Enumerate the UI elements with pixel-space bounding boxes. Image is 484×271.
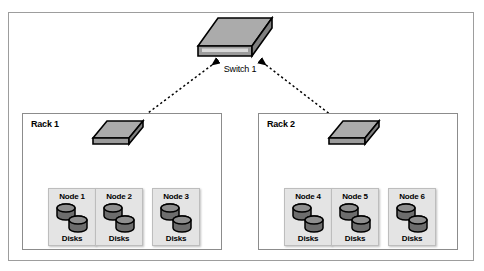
node-1-disks-label: Disks [49, 234, 95, 243]
node-4-label: Node 4 [285, 192, 331, 201]
core-switch-label: Switch 1 [205, 64, 275, 74]
node-5-label: Node 5 [332, 192, 378, 201]
node-2-disks-label: Disks [96, 234, 142, 243]
node-1-label: Node 1 [49, 192, 95, 201]
node-5-disks-label: Disks [332, 234, 378, 243]
node-box-6[interactable]: Node 6 Disks [388, 188, 436, 246]
network-switch-icon [196, 16, 274, 64]
diagram-canvas: Switch 1 Rack 1 Node 1 Disks Node [0, 0, 484, 271]
disk-stack-icon [103, 203, 137, 233]
disk-stack-icon [56, 203, 90, 233]
node-4-disks-label: Disks [285, 234, 331, 243]
node-3-label: Node 3 [153, 192, 199, 201]
disk-stack-icon [396, 203, 430, 233]
node-box-1[interactable]: Node 1 Disks [48, 188, 96, 246]
network-switch-icon [91, 119, 145, 147]
node-6-label: Node 6 [389, 192, 435, 201]
core-switch[interactable] [196, 16, 274, 64]
rack-2-label: Rack 2 [267, 119, 295, 129]
disk-stack-icon [160, 203, 194, 233]
node-2-label: Node 2 [96, 192, 142, 201]
disk-stack-icon [292, 203, 326, 233]
node-box-4[interactable]: Node 4 Disks [284, 188, 332, 246]
node-box-2[interactable]: Node 2 Disks [95, 188, 143, 246]
rack-2-switch[interactable] [327, 119, 381, 147]
disk-stack-icon [339, 203, 373, 233]
node-box-3[interactable]: Node 3 Disks [152, 188, 200, 246]
network-switch-icon [327, 119, 381, 147]
node-3-disks-label: Disks [153, 234, 199, 243]
node-6-disks-label: Disks [389, 234, 435, 243]
rack-1-switch[interactable] [91, 119, 145, 147]
node-box-5[interactable]: Node 5 Disks [331, 188, 379, 246]
rack-1-label: Rack 1 [31, 119, 59, 129]
